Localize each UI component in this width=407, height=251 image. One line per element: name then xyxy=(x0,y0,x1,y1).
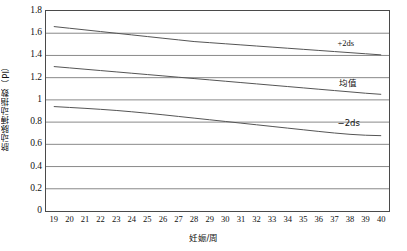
y-axis-tick-label: 0.4 xyxy=(16,162,42,172)
y-axis-title: 脐动脉搏动指数（PI） xyxy=(0,0,14,212)
x-axis-title: 妊娠/周 xyxy=(0,231,407,243)
series-line-minus2ds xyxy=(54,107,381,136)
series-annotation: 均值 xyxy=(339,78,357,88)
y-axis-tick-label: 1.6 xyxy=(16,28,42,38)
y-axis-tick-label: 1.8 xyxy=(16,6,42,16)
y-axis-tick-label: 0.6 xyxy=(16,139,42,149)
series-annotation: −2ds xyxy=(338,118,360,128)
y-axis-title-text: 脐动脉搏动指数（PI） xyxy=(0,62,12,151)
y-axis-tick-label: 1.4 xyxy=(16,50,42,60)
y-axis-tick-label: 0.2 xyxy=(16,184,42,194)
y-axis-tick-labels: 00.20.40.60.811.21.41.61.8 xyxy=(14,0,42,220)
x-axis-tick-label: 40 xyxy=(372,214,390,224)
series-line-mean xyxy=(54,67,381,95)
y-axis-tick-label: 0.8 xyxy=(16,117,42,127)
x-axis-tick-labels: 1920212223242526272829303132333435363738… xyxy=(0,214,407,228)
series-annotation: +2ds xyxy=(338,38,355,48)
series-line-plus2ds xyxy=(54,27,381,55)
chart-container: 脐动脉搏动指数（PI） 00.20.40.60.811.21.41.61.8 +… xyxy=(0,0,407,251)
y-axis-tick-label: 1 xyxy=(16,95,42,105)
y-axis-tick-label: 1.2 xyxy=(16,73,42,83)
